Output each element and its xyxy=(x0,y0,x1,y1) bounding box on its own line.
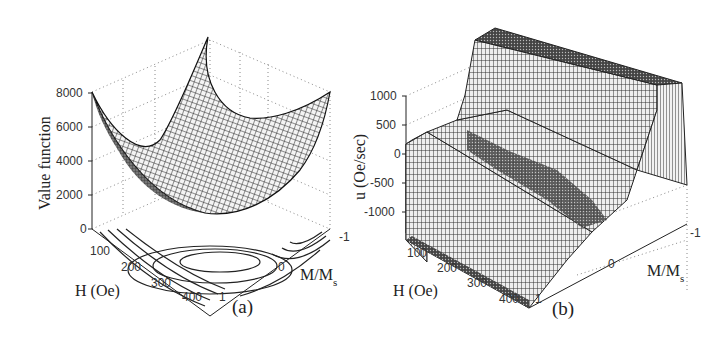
m-axis-label-sub: s xyxy=(680,272,684,284)
z-axis-label: Value function xyxy=(36,116,54,210)
h-axis-label: H (Oe) xyxy=(393,282,438,300)
h-tick-300: 300 xyxy=(151,276,171,290)
z-axis-ticks xyxy=(402,96,406,212)
z-tick-neg1000: -1000 xyxy=(364,205,395,219)
m-tick-neg1: -1 xyxy=(690,226,701,240)
m-tick-1: 1 xyxy=(535,292,542,306)
z-tick-1000: 1000 xyxy=(370,89,397,103)
z-tick-8000: 8000 xyxy=(56,86,83,100)
z-tick-4000: 4000 xyxy=(56,154,83,168)
m-tick-neg1: -1 xyxy=(339,230,350,244)
caption-a: (a) xyxy=(232,296,253,318)
m-axis-label-text: M/M xyxy=(300,266,333,283)
value-function-surface xyxy=(92,37,330,214)
z-tick-2000: 2000 xyxy=(56,188,83,202)
m-axis-label-sub: s xyxy=(333,276,337,288)
h-tick-100: 100 xyxy=(407,246,427,260)
h-tick-100: 100 xyxy=(90,244,110,258)
z-axis-ticks xyxy=(88,93,92,229)
h-tick-400: 400 xyxy=(499,292,519,306)
m-axis-label-text: M/M xyxy=(647,262,680,279)
z-tick-0: 0 xyxy=(80,222,87,236)
m-tick-0: 0 xyxy=(608,257,615,271)
h-tick-200: 200 xyxy=(121,260,141,274)
m-axis-label: M/Ms xyxy=(300,266,337,284)
z-tick-0: 0 xyxy=(394,147,401,161)
h-tick-200: 200 xyxy=(437,261,457,275)
caption-b: (b) xyxy=(552,298,574,320)
z-tick-6000: 6000 xyxy=(56,120,83,134)
m-axis-label: M/Ms xyxy=(647,262,684,280)
z-tick-500: 500 xyxy=(376,118,396,132)
z-axis-label: u (Oe/sec) xyxy=(351,134,369,200)
h-tick-300: 300 xyxy=(467,276,487,290)
panel-b: 1000 500 0 -500 -1000 u (Oe/sec) 100 200… xyxy=(357,0,714,341)
h-tick-400: 400 xyxy=(182,290,202,304)
m-tick-1: 1 xyxy=(219,290,226,304)
m-tick-0: 0 xyxy=(278,260,285,274)
panel-a: 8000 6000 4000 2000 0 Value function 100… xyxy=(0,0,357,341)
z-tick-neg500: -500 xyxy=(370,176,394,190)
h-axis-label: H (Oe) xyxy=(75,282,120,300)
